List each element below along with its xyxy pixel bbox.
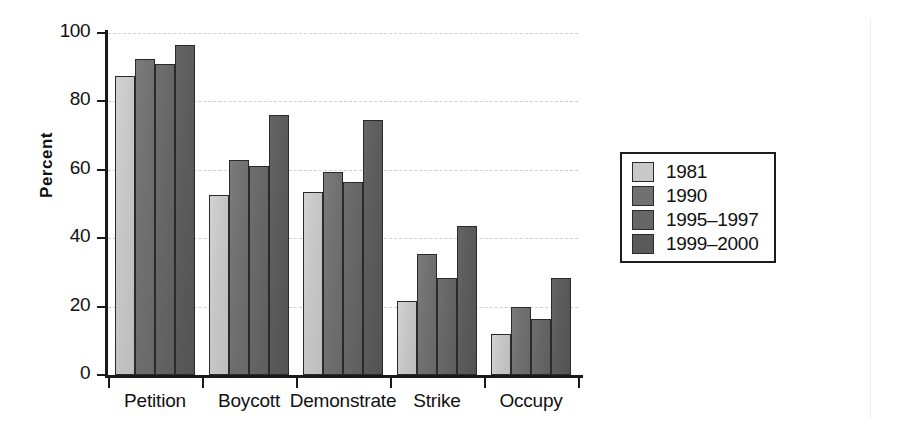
- bar-demonstrate-1981: [303, 192, 323, 375]
- bar-petition-1995–1997: [155, 64, 175, 375]
- bar-boycott-1995–1997: [249, 166, 269, 375]
- page-edge-rule: [870, 18, 871, 418]
- bar-boycott-1990: [229, 160, 249, 375]
- legend-item-label: 1981: [666, 161, 707, 183]
- gridline: [108, 33, 578, 34]
- bar-strike-1981: [397, 301, 417, 375]
- bar-boycott-1981: [209, 195, 229, 375]
- y-axis-tick-label: 20: [48, 294, 90, 316]
- bar-demonstrate-1999–2000: [363, 120, 383, 375]
- bar-petition-1999–2000: [175, 45, 195, 375]
- bar-occupy-1995–1997: [531, 319, 551, 375]
- x-axis-label-occupy: Occupy: [499, 390, 562, 412]
- x-axis-label-petition: Petition: [124, 390, 186, 412]
- bar-occupy-1981: [491, 334, 511, 375]
- bar-strike-1990: [417, 254, 437, 375]
- bar-strike-1995–1997: [437, 278, 457, 375]
- legend-item[interactable]: 1990: [632, 184, 774, 208]
- x-axis-tick: [296, 378, 298, 388]
- chart-figure: Percent 100806040200 PetitionBoycottDemo…: [0, 0, 912, 434]
- x-axis-tick: [108, 378, 110, 388]
- x-axis-label-strike: Strike: [413, 390, 460, 412]
- y-axis-tick-label: 0: [48, 362, 90, 384]
- y-axis-tick-label: 40: [48, 225, 90, 247]
- x-axis-label-boycott: Boycott: [218, 390, 280, 412]
- bar-strike-1999–2000: [457, 226, 477, 375]
- bar-boycott-1999–2000: [269, 115, 289, 375]
- legend-item[interactable]: 1995–1997: [632, 208, 774, 232]
- legend-item[interactable]: 1999–2000: [632, 232, 774, 256]
- bar-demonstrate-1995–1997: [343, 182, 363, 375]
- bar-occupy-1999–2000: [551, 278, 571, 375]
- x-axis-tick: [484, 378, 486, 388]
- legend-item-label: 1999–2000: [666, 233, 758, 255]
- bar-petition-1981: [115, 76, 135, 375]
- chart-legend: 1981 1990 1995–1997 1999–2000: [620, 152, 776, 263]
- plot-area: [108, 33, 578, 375]
- legend-item-label: 1990: [666, 185, 707, 207]
- legend-swatch-icon: [632, 162, 654, 182]
- bar-petition-1990: [135, 59, 155, 375]
- x-axis-line: [105, 375, 583, 378]
- bar-occupy-1990: [511, 307, 531, 375]
- legend-item-label: 1995–1997: [666, 209, 758, 231]
- y-axis-tick-label: 80: [48, 88, 90, 110]
- x-axis-tick: [578, 378, 580, 388]
- legend-item[interactable]: 1981: [632, 160, 774, 184]
- y-axis-tick-label: 60: [48, 157, 90, 179]
- x-axis-tick: [202, 378, 204, 388]
- y-axis-tick-label: 100: [48, 20, 90, 42]
- x-axis-tick: [390, 378, 392, 388]
- legend-swatch-icon: [632, 234, 654, 254]
- legend-swatch-icon: [632, 186, 654, 206]
- bar-demonstrate-1990: [323, 172, 343, 375]
- legend-swatch-icon: [632, 210, 654, 230]
- x-axis-label-demonstrate: Demonstrate: [290, 390, 397, 412]
